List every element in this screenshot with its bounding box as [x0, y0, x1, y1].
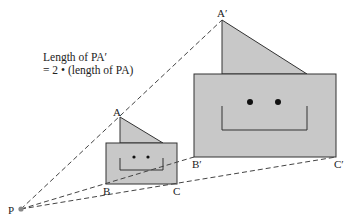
image-figure	[194, 20, 336, 157]
dilation-diagram: Length of PA′ = 2 • (length of PA) P A	[0, 0, 355, 222]
label-C: C	[173, 185, 180, 197]
image-rectangle	[194, 74, 336, 157]
label-B-prime: B′	[192, 158, 202, 170]
image-eye-left	[247, 99, 253, 105]
figure-svg: P A B C A′ B′ C′	[0, 0, 355, 222]
preimage-eye-left	[132, 155, 135, 158]
image-eye-right	[275, 99, 281, 105]
center-point-P	[18, 206, 23, 211]
preimage-rectangle	[106, 143, 177, 184]
label-P: P	[8, 204, 14, 216]
image-triangle	[222, 20, 307, 74]
label-B: B	[103, 185, 110, 197]
preimage-figure	[106, 117, 177, 184]
label-A: A	[113, 106, 121, 118]
preimage-triangle	[120, 117, 163, 143]
label-C-prime: C′	[334, 158, 344, 170]
label-A-prime: A′	[217, 7, 227, 19]
preimage-eye-right	[146, 155, 149, 158]
